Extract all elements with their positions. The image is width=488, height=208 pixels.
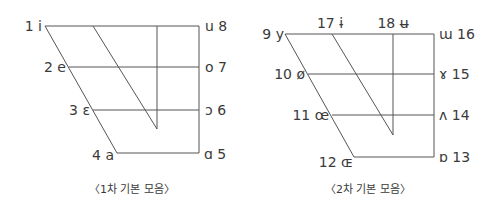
chart2-central-diagonal	[332, 34, 393, 135]
chart1-caption: 〈1차 기본 모음〉	[89, 183, 175, 196]
vowel-label-6: ɔ 6	[205, 102, 226, 118]
vowel-charts: 1 i 2 e 3 ɛ 4 a ɑ 5 ɔ 6 o 7 u 8 〈1차 기본 모…	[0, 0, 488, 208]
vowel-label-12: 12 ɶ	[319, 154, 353, 170]
vowel-label-11: 11 œ	[292, 107, 329, 123]
vowel-label-13: ɒ 13	[439, 149, 470, 165]
vowel-label-7: o 7	[205, 59, 227, 75]
vowel-label-9: 9 y	[262, 26, 284, 42]
vowel-label-14: ʌ 14	[439, 107, 470, 123]
secondary-vowel-chart: 9 y 10 ø 11 œ 12 ɶ ɒ 13 ʌ 14 ɤ 15 ɯ 16 1…	[262, 15, 475, 196]
vowel-label-4: 4 a	[92, 147, 114, 163]
vowel-label-15: ɤ 15	[439, 66, 470, 82]
primary-vowel-chart: 1 i 2 e 3 ɛ 4 a ɑ 5 ɔ 6 o 7 u 8 〈1차 기본 모…	[25, 18, 227, 196]
vowel-label-2: 2 e	[44, 59, 66, 75]
vowel-label-10: 10 ø	[274, 66, 305, 82]
vowel-label-3: 3 ɛ	[69, 102, 90, 118]
chart1-central-diagonal	[93, 26, 157, 129]
vowel-label-17: 17 ɨ	[317, 15, 343, 31]
chart1-front-diagonal	[45, 26, 117, 153]
chart2-caption: 〈2차 기본 모음〉	[325, 183, 411, 196]
vowel-label-8: u 8	[205, 18, 227, 34]
vowel-label-1: 1 i	[25, 18, 42, 34]
vowel-label-5: ɑ 5	[204, 146, 226, 162]
vowel-label-18: 18 ʉ	[377, 15, 408, 31]
vowel-label-16: ɯ 16	[439, 26, 475, 42]
